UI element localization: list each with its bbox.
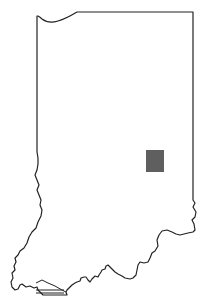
highlighted-county xyxy=(146,150,164,172)
indiana-locator-map: Indiana xyxy=(0,0,206,301)
state-outline-svg xyxy=(0,0,206,301)
state-outline xyxy=(11,12,196,295)
